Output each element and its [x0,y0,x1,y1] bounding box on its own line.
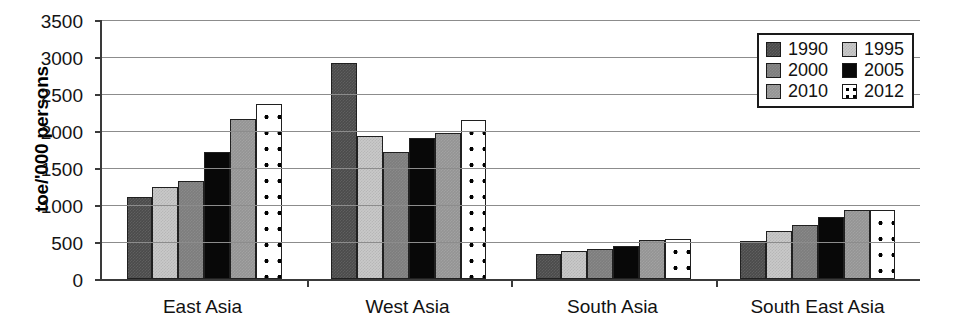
legend-label: 2000 [788,61,828,80]
bar-chart: toe/'000 persons 35003000250020001500100… [0,0,955,334]
bar-south-east-asia-2010 [844,210,870,279]
gridline [102,20,920,21]
chart-legend: 199019952000200520102012 [757,33,914,108]
bar-east-asia-2000 [178,181,204,279]
bar-south-asia-2012 [665,239,691,279]
bar-south-east-asia-2005 [818,217,844,279]
gridline [102,205,920,206]
y-axis-tick-label: 2500 [41,85,83,107]
y-axis-tick-label: 1000 [41,196,83,218]
y-axis-tick: 1000 [95,205,102,207]
bars-wrapper [536,20,691,279]
bars-wrapper [127,20,282,279]
bar-east-asia-2010 [230,119,256,279]
y-axis-tick-label: 3000 [41,48,83,70]
legend-item-2010[interactable]: 2010 [766,82,828,101]
legend-swatch-icon [766,84,781,99]
y-axis-tick-label: 0 [72,270,83,292]
bar-east-asia-2005 [204,152,230,279]
legend-swatch-icon [842,63,857,78]
x-axis-label: South Asia [510,296,715,318]
bar-group [102,20,307,279]
x-axis-tick [307,279,309,287]
bar-west-asia-2010 [435,133,461,279]
x-axis-tick [716,279,718,287]
legend-swatch-icon [842,84,857,99]
gridline [102,242,920,243]
y-axis-tick-label: 1500 [41,159,83,181]
x-axis-tick [511,279,513,287]
gridline [102,168,920,169]
legend-item-2012[interactable]: 2012 [842,82,904,101]
bar-group [307,20,512,279]
legend-item-1995[interactable]: 1995 [842,40,904,59]
bar-south-east-asia-2000 [792,225,818,279]
bar-south-asia-2005 [613,246,639,279]
bar-south-asia-2010 [639,240,665,279]
bar-west-asia-1995 [357,136,383,279]
x-axis-labels: East AsiaWest AsiaSouth AsiaSouth East A… [100,296,920,318]
legend-swatch-icon [766,63,781,78]
y-axis-tick: 1500 [95,168,102,170]
y-axis-tick-label: 2000 [41,122,83,144]
legend-swatch-icon [842,42,857,57]
y-axis-tick: 2500 [95,94,102,96]
y-axis-tick: 2000 [95,131,102,133]
legend-item-2000[interactable]: 2000 [766,61,828,80]
bar-west-asia-1990 [331,63,357,279]
bar-south-asia-1990 [536,254,562,279]
bar-group [511,20,716,279]
legend-label: 2010 [788,82,828,101]
legend-item-2005[interactable]: 2005 [842,61,904,80]
legend-label: 2012 [864,82,904,101]
bar-west-asia-2012 [461,120,487,279]
bar-south-east-asia-1995 [766,231,792,279]
bar-south-asia-2000 [587,249,613,279]
y-axis-tick: 3500 [95,20,102,22]
legend-item-1990[interactable]: 1990 [766,40,828,59]
legend-label: 1990 [788,40,828,59]
y-axis-tick: 0 [95,279,102,281]
y-axis-tick-label: 500 [51,233,83,255]
bar-south-east-asia-2012 [870,210,896,279]
x-axis-label: South East Asia [715,296,920,318]
bars-wrapper [331,20,486,279]
x-axis-label: East Asia [100,296,305,318]
bar-east-asia-1995 [152,187,178,279]
legend-label: 2005 [864,61,904,80]
x-axis-label: West Asia [305,296,510,318]
bar-west-asia-2005 [409,138,435,279]
bar-south-east-asia-1990 [740,241,766,279]
legend-label: 1995 [864,40,904,59]
bar-west-asia-2000 [383,152,409,279]
y-axis-tick: 500 [95,242,102,244]
legend-swatch-icon [766,42,781,57]
gridline [102,131,920,132]
bar-south-asia-1995 [561,251,587,279]
bar-east-asia-1990 [127,197,153,279]
y-axis-tick-label: 3500 [41,11,83,33]
y-axis-tick: 3000 [95,57,102,59]
